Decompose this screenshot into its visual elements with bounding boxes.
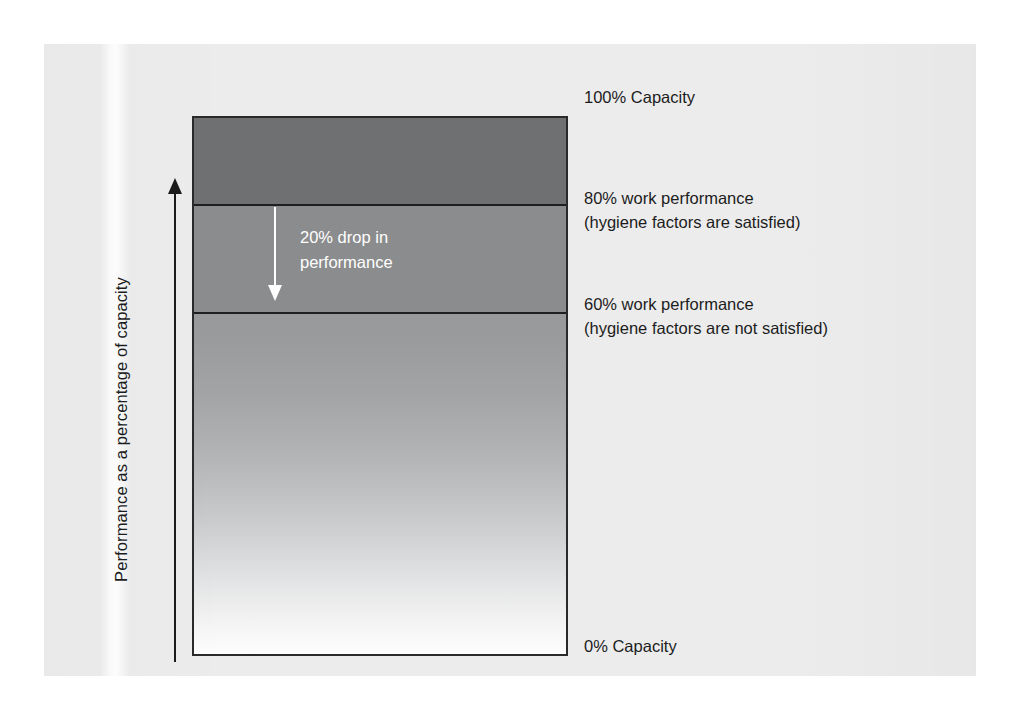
drop-annotation-line-1: 20% drop in: [300, 228, 388, 246]
callout-60-line-1: 60% work performance: [584, 295, 754, 313]
y-axis-label: Performance as a percentage of capacity: [112, 210, 131, 650]
callout-100-line-1: 100% Capacity: [584, 88, 695, 106]
callout-100-capacity: 100% Capacity: [584, 85, 695, 109]
drop-arrow-shaft: [274, 207, 276, 287]
capacity-bar: [192, 116, 568, 656]
callout-60-line-2: (hygiene factors are not satisfied): [584, 316, 828, 340]
bar-segment-80-to-100: [194, 118, 566, 206]
callout-80-line-1: 80% work performance: [584, 189, 754, 207]
callout-60-performance: 60% work performance (hygiene factors ar…: [584, 292, 828, 340]
callout-80-performance: 80% work performance (hygiene factors ar…: [584, 186, 800, 234]
y-axis-line: [174, 190, 176, 662]
bar-segment-0-to-60: [194, 314, 566, 654]
figure-page: Performance as a percentage of capacity …: [0, 0, 1018, 709]
drop-annotation-label: 20% drop in performance: [300, 225, 393, 275]
drop-arrow-icon: [268, 285, 282, 301]
callout-80-line-2: (hygiene factors are satisfied): [584, 210, 800, 234]
drop-annotation-line-2: performance: [300, 253, 393, 271]
callout-0-capacity: 0% Capacity: [584, 634, 677, 658]
callout-0-line-1: 0% Capacity: [584, 637, 677, 655]
